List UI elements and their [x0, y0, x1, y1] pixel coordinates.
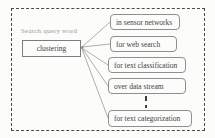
branch-node-text-categorization: for text categorization	[108, 110, 192, 127]
branch-node-data-stream: over data stream	[108, 78, 186, 94]
branch-label: over data stream	[114, 82, 164, 91]
branch-label: for text classification	[114, 61, 177, 70]
diagram-canvas: Search query word clustering in sensor n…	[0, 0, 215, 138]
root-node-label: clustering	[37, 44, 67, 53]
branch-label: in sensor networks	[116, 18, 172, 27]
branch-label: for web search	[116, 40, 160, 49]
branch-node-sensor-networks: in sensor networks	[110, 14, 180, 30]
branch-node-text-classification: for text classification	[108, 57, 186, 73]
branch-node-web-search: for web search	[110, 36, 177, 52]
root-node-clustering: clustering	[22, 40, 81, 57]
source-label: Search query word	[21, 27, 83, 37]
branch-label: for text categorization	[114, 114, 180, 123]
